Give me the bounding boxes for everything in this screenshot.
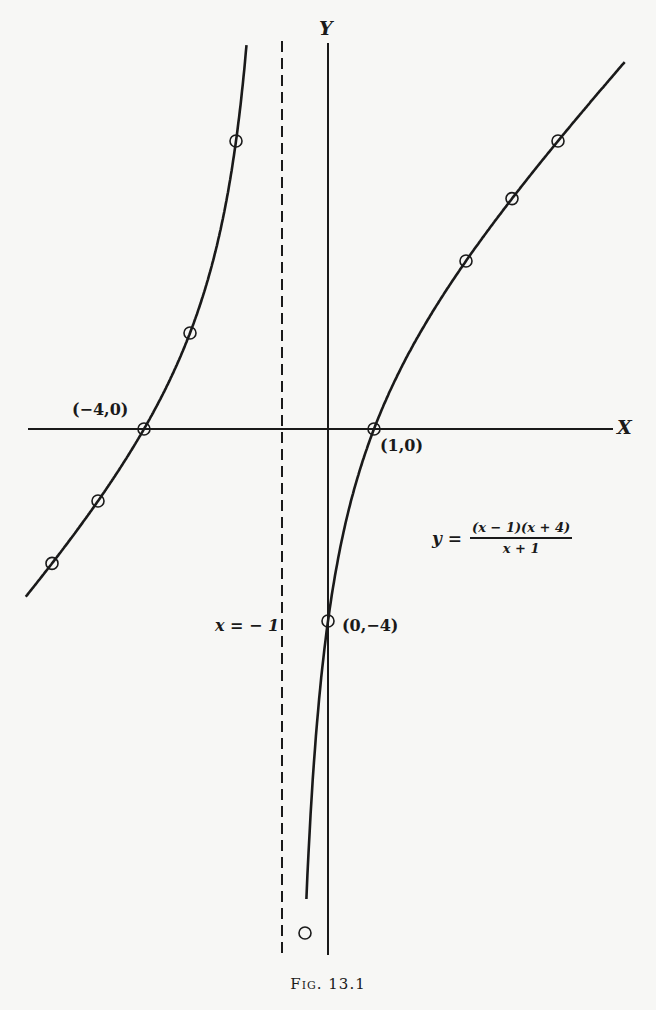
- graph-figure: [0, 0, 656, 1010]
- function-equation: y = (x − 1)(x + 4) x + 1: [432, 520, 572, 556]
- point-label-1-0: (1,0): [380, 436, 423, 455]
- equation-fraction: (x − 1)(x + 4) x + 1: [470, 520, 572, 556]
- curve-right-branch: [306, 62, 624, 899]
- y-axis-label: Y: [319, 17, 333, 39]
- equation-lhs: y =: [432, 528, 462, 548]
- point-label-neg4-0: (−4,0): [72, 400, 128, 419]
- figure-caption: Fig. 13.1: [0, 975, 656, 993]
- equation-denominator: x + 1: [503, 539, 540, 556]
- data-point-marker: [299, 927, 311, 939]
- equation-numerator: (x − 1)(x + 4): [470, 520, 572, 539]
- x-axis-label: X: [617, 416, 632, 438]
- asymptote-label: x = − 1: [215, 616, 279, 635]
- curve-left-branch: [26, 45, 247, 597]
- point-label-0-neg4: (0,−4): [342, 616, 398, 635]
